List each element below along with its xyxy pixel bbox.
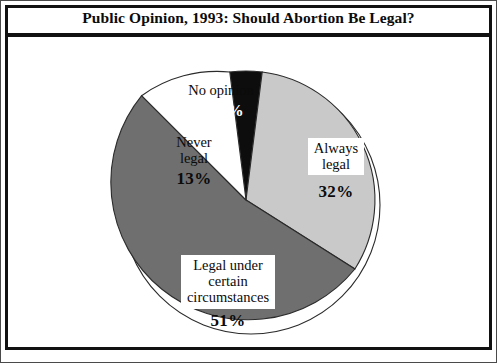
pie-label-certain-circumstances-line1: Legal under xyxy=(193,257,263,273)
pie-label-no-opinion: No opinion xyxy=(156,82,286,98)
pie-plot-area: No opinion 4% Never legal 13% Always leg… xyxy=(8,37,489,347)
chart-title: Public Opinion, 1993: Should Abortion Be… xyxy=(8,9,489,27)
pie-label-never-legal-line2: legal xyxy=(180,150,208,166)
pie-value-no-opinion: 4% xyxy=(201,101,261,120)
pie-label-always-legal-line1: Always xyxy=(314,140,358,156)
pie-label-always-legal-line2: legal xyxy=(322,156,350,172)
pie-value-certain-circumstances: 51% xyxy=(158,311,298,330)
pie-label-never-legal: Never legal xyxy=(148,134,240,166)
pie-label-certain-circumstances-line2: certain xyxy=(208,273,247,289)
pie-label-never-legal-line1: Never xyxy=(176,134,211,150)
pie-label-certain-circumstances-box: Legal under certain circumstances xyxy=(181,255,275,309)
chart-figure: Public Opinion, 1993: Should Abortion Be… xyxy=(0,0,497,363)
pie-label-always-legal-box: Always legal xyxy=(308,138,364,175)
pie-label-certain-circumstances-line3: circumstances xyxy=(187,289,269,305)
pie-label-certain-circumstances: Legal under certain circumstances xyxy=(136,255,320,309)
pie-label-always-legal: Always legal xyxy=(288,138,384,175)
pie-value-never-legal: 13% xyxy=(153,169,235,188)
pie-value-always-legal: 32% xyxy=(292,182,380,201)
